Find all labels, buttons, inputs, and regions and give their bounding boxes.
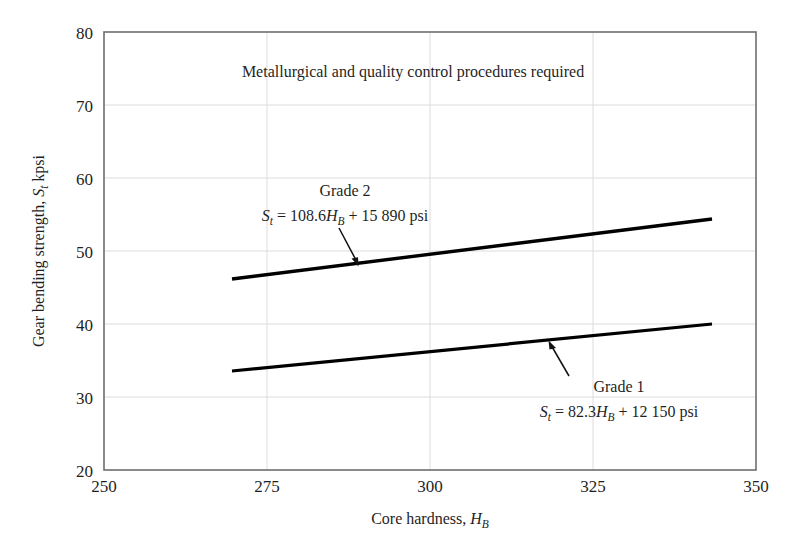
plot-note: Metallurgical and quality control proced… bbox=[242, 63, 584, 81]
y-axis-title-symbol: S bbox=[30, 189, 47, 197]
x-tick-250: 250 bbox=[91, 477, 117, 496]
grade-2-eq-symbol: S bbox=[262, 207, 270, 224]
y-axis-title-tail: kpsi bbox=[30, 154, 48, 185]
grade-1-eq-var-subscript: B bbox=[608, 411, 615, 423]
x-tick-300: 300 bbox=[417, 477, 443, 496]
y-axis-title-text: Gear bending strength, bbox=[30, 197, 48, 347]
grade-2-label: Grade 2 bbox=[319, 182, 370, 199]
grade-2-eq-middle: = 108.6 bbox=[273, 207, 326, 224]
y-tick-40: 40 bbox=[76, 316, 93, 335]
grade-1-eq-middle: = 82.3 bbox=[551, 403, 596, 420]
x-axis-title-text: Core hardness, bbox=[371, 510, 470, 527]
y-tick-80: 80 bbox=[76, 24, 93, 43]
x-tick-350: 350 bbox=[743, 477, 769, 496]
grade-1-eq-tail: + 12 150 psi bbox=[615, 403, 699, 421]
chart-svg: 80 70 60 50 40 30 20 250 275 300 325 350… bbox=[0, 0, 810, 550]
grade-1-label: Grade 1 bbox=[593, 378, 644, 395]
canvas-background bbox=[0, 0, 810, 550]
figure-container: 80 70 60 50 40 30 20 250 275 300 325 350… bbox=[0, 0, 810, 550]
x-axis-title-subscript: B bbox=[482, 518, 489, 530]
y-tick-70: 70 bbox=[76, 97, 93, 116]
y-tick-30: 30 bbox=[76, 389, 93, 408]
grade-1-eq-symbol: S bbox=[540, 403, 548, 420]
y-tick-50: 50 bbox=[76, 243, 93, 262]
grade-2-eq-tail: + 15 890 psi bbox=[345, 207, 429, 225]
x-tick-275: 275 bbox=[254, 477, 280, 496]
x-tick-325: 325 bbox=[580, 477, 606, 496]
grade-2-eq-var-subscript: B bbox=[338, 215, 345, 227]
y-tick-60: 60 bbox=[76, 170, 93, 189]
